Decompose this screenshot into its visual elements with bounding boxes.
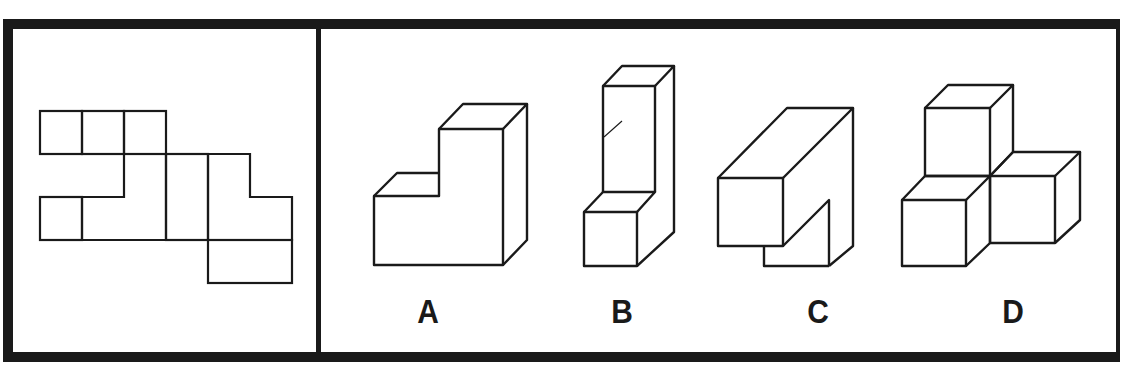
option-d-shape [902,85,1080,266]
puzzle-figure: A B C D [0,0,1121,366]
option-d-label[interactable]: D [995,293,1030,329]
net-diagram [40,111,292,283]
option-b-label[interactable]: B [604,293,639,329]
panel-divider [316,19,321,362]
option-c-shape [718,108,853,266]
option-a-label[interactable]: A [410,293,445,329]
outer-frame [3,19,1120,362]
option-b-shape [584,66,674,266]
option-c-label[interactable]: C [800,293,835,329]
option-a-shape [374,104,527,265]
puzzle-drawing [0,0,1121,366]
